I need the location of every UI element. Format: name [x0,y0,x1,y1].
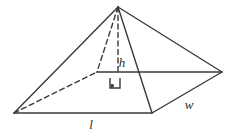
height-label: h [119,55,126,70]
width-label: w [185,97,194,112]
pyramid-svg-canvas: l w h [0,0,233,136]
edge-apex-to-back-right [118,7,222,72]
length-label: l [89,117,93,132]
right-angle-marker-dot [111,84,114,87]
edge-apex-to-front-left [14,7,118,113]
edge-base-back-length [14,72,97,113]
pyramid-figure: l w h [0,0,233,136]
right-angle-marker [110,78,120,88]
